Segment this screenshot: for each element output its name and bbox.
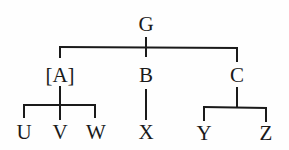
node-a: [A]	[45, 65, 74, 86]
node-g: G	[138, 14, 153, 35]
node-x: X	[138, 122, 153, 143]
node-z: Z	[260, 123, 273, 144]
node-c: C	[230, 65, 244, 86]
tree-diagram: G [A] B C U V W X Y Z	[0, 0, 289, 150]
node-b: B	[139, 65, 153, 86]
connector-c-bar	[204, 107, 266, 108]
node-y: Y	[196, 123, 211, 144]
connector-g-bar	[60, 47, 237, 48]
node-v: V	[52, 122, 67, 143]
node-w: W	[86, 122, 106, 143]
node-u: U	[16, 122, 31, 143]
